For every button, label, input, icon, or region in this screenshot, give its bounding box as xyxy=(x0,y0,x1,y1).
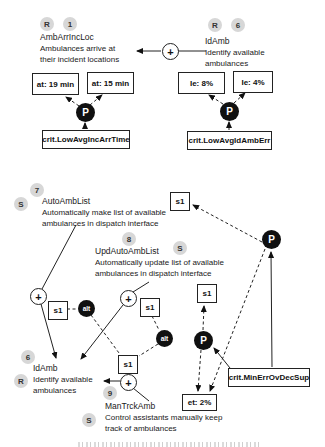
edge-p4-to-et2 xyxy=(198,350,201,391)
badge-num-autoamblist: 7 xyxy=(30,183,44,197)
goal-ambarrincloc: AmbArrIncLoc Ambulances arrive at their … xyxy=(40,32,119,65)
edge-p1-to-at19 xyxy=(66,97,79,106)
goal-updautoamblist: UpdAutoAmbList Automatically update list… xyxy=(95,246,224,279)
p-node-small-bottom: P xyxy=(194,331,213,350)
goal-autoamblist-desc1: Automatically make list of available xyxy=(42,207,166,218)
goal-autoamblist: AutoAmbList Automatically make list of a… xyxy=(42,196,166,229)
goal-idamb-top: IdAmb Identify available ambulances xyxy=(205,36,265,69)
edge-upd-to-plus2 xyxy=(133,282,149,292)
edge-p1-to-at15 xyxy=(90,95,102,105)
badge-num-idamb-top: 6 xyxy=(231,18,245,32)
plus-node-updautoamblist: + xyxy=(120,290,137,307)
goal-ambarrincloc-desc2: their incident locations xyxy=(40,54,119,65)
edge-p4-to-s1c xyxy=(203,306,204,330)
s1-box-p-small: s1 xyxy=(197,284,217,303)
goal-idamb-bottom-name: IdAmb xyxy=(33,363,93,374)
goal-ambarrincloc-desc1: Ambulances arrive at xyxy=(40,43,119,54)
s1-box-p-big: s1 xyxy=(170,192,190,211)
goal-idamb-top-desc2: ambulances xyxy=(205,58,265,69)
badge-num-mantrckamb: 9 xyxy=(103,386,117,400)
crit-box-lowavgidamberr: crit.LowAvgIdAmbErr xyxy=(187,131,272,150)
p-node-big-bottom: P xyxy=(262,230,281,249)
plus-node-autoamblist: + xyxy=(30,288,47,305)
edge-crit3-to-p3 xyxy=(271,252,272,367)
goal-contribution-diagram: R 1 AmbArrIncLoc Ambulances arrive at th… xyxy=(0,0,325,447)
edge-p2-to-ie8 xyxy=(209,95,223,104)
badge-type-idamb-top: R xyxy=(208,18,222,32)
plus-node-mantrckamb: + xyxy=(120,374,137,391)
measure-box-ie4: Ie: 4% xyxy=(233,71,273,93)
edge-p3-to-s1e xyxy=(193,205,262,242)
p-node-idamberr: P xyxy=(220,102,239,121)
alt-node-left: alt xyxy=(78,300,95,317)
goal-idamb-top-desc1: Identify available xyxy=(205,47,265,58)
edge-crit3-to-p4 xyxy=(214,348,230,368)
goal-idamb-bottom: IdAmb Identify available ambulances xyxy=(33,363,93,396)
badge-type-mantrckamb: S xyxy=(82,413,96,427)
goal-ambarrincloc-name: AmbArrIncLoc xyxy=(40,32,119,43)
edge-auto-to-plus1 xyxy=(42,225,76,289)
badge-type-ambarrincloc: R xyxy=(40,17,54,31)
edge-alt1-to-s1d xyxy=(91,315,119,353)
badge-num-updautoamblist: 8 xyxy=(122,232,136,246)
plus-node-top: + xyxy=(162,43,179,60)
edge-p2-to-ie4 xyxy=(234,93,245,103)
s1-box-updautoamblist: s1 xyxy=(140,298,160,317)
measure-box-ie8: Ie: 8% xyxy=(178,72,225,94)
badge-num-ambarrincloc: 1 xyxy=(63,17,77,31)
goal-updautoamblist-desc2: ambulances in dispatch interface xyxy=(95,268,224,279)
p-node-incarrtime: P xyxy=(76,103,95,122)
goal-updautoamblist-name: UpdAutoAmbList xyxy=(95,246,224,257)
s1-box-mantrckamb: s1 xyxy=(118,355,138,374)
badge-type-autoamblist: S xyxy=(14,197,28,211)
goal-mantrckamb-desc2: track of ambulances xyxy=(105,423,222,434)
edge-alt2-to-s1d xyxy=(139,344,158,356)
goal-idamb-top-name: IdAmb xyxy=(205,36,265,47)
badge-type-idamb-bottom: R xyxy=(14,374,28,388)
badge-num-idamb-bottom: 6 xyxy=(21,350,35,364)
measure-box-et2: et: 2% xyxy=(182,394,217,411)
s1-box-autoamblist: s1 xyxy=(48,301,68,320)
edge-s1b-to-alt2 xyxy=(152,316,159,330)
crit-box-minerrovdecsup: crit.MinErrOvDecSup xyxy=(228,368,310,387)
measure-box-at15min: at: 15 min xyxy=(87,72,134,94)
goal-idamb-bottom-desc2: ambulances xyxy=(33,385,93,396)
goal-autoamblist-name: AutoAmbList xyxy=(42,196,166,207)
alt-node-right: alt xyxy=(156,330,173,347)
edge-plus3-to-man xyxy=(133,388,149,401)
goal-autoamblist-desc2: ambulances in dispatch interface xyxy=(42,218,166,229)
goal-idamb-bottom-desc1: Identify available xyxy=(33,374,93,385)
crit-box-lowavgincarrtime: crit.LowAvgIncArrTime xyxy=(42,130,130,149)
measure-box-at19min: at: 19 min xyxy=(32,73,79,95)
goal-mantrckamb-desc1: Control assistants manually keep xyxy=(105,412,222,423)
goal-updautoamblist-desc1: Automatically update list of available xyxy=(95,257,224,268)
